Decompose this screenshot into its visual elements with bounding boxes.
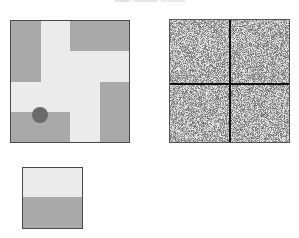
title-remnant xyxy=(115,0,185,2)
agent-marker xyxy=(32,107,48,123)
vertical-divider xyxy=(229,20,231,142)
maze-view xyxy=(10,20,130,143)
horizontal-divider xyxy=(170,83,289,85)
wall-right xyxy=(100,82,130,143)
wall-top-left xyxy=(11,21,41,82)
clipped-title xyxy=(115,0,185,3)
goal-wall-half xyxy=(23,197,82,228)
noise-observation-panel xyxy=(169,19,290,143)
goal-preview xyxy=(22,167,83,229)
goal-floor-half xyxy=(23,168,82,197)
wall-top-right xyxy=(70,21,129,51)
